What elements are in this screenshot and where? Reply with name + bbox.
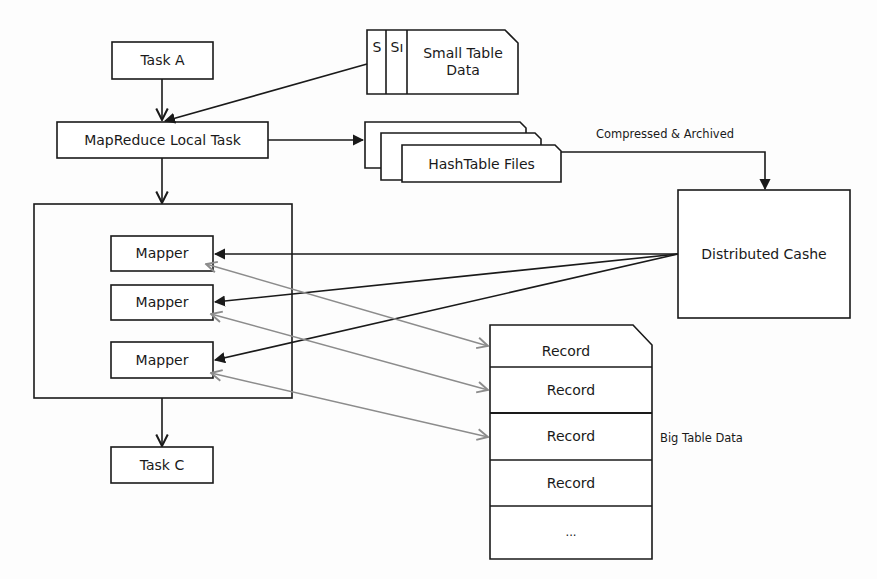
task-c-label: Task C	[111, 447, 213, 483]
small-table-label-line2: Data	[446, 62, 479, 79]
small-table-label: Small Table Data	[408, 32, 518, 92]
distributed-cache-label: Distributed Cashe	[678, 236, 850, 272]
small-table-label-line1: Small Table	[423, 45, 503, 62]
task-a-label: Task A	[112, 42, 213, 79]
link-mapper3-record3	[211, 373, 488, 437]
big-table-record-4: Record	[490, 460, 652, 506]
compressed-archived-label: Compressed & Archived	[590, 125, 740, 143]
small-table-stack-label-1: S	[368, 30, 386, 64]
big-table-caption: Big Table Data	[660, 429, 760, 447]
link-mapper1-record1	[206, 264, 488, 346]
big-table-record-2: Record	[490, 367, 652, 413]
local-task-label: MapReduce Local Task	[57, 122, 268, 158]
edge-cache-to-mapper-2	[215, 254, 678, 302]
mapper-label-2: Mapper	[111, 285, 213, 320]
mapper-label-3: Mapper	[111, 342, 213, 378]
edge-hashtable-to-cache	[561, 152, 765, 189]
small-table-stack-label-2: Sı	[387, 30, 407, 64]
big-table-record-3: Record	[490, 413, 652, 460]
hashtable-files-label: HashTable Files	[402, 146, 561, 182]
big-table-ellipsis: ...	[490, 506, 652, 559]
mapper-label-1: Mapper	[111, 236, 213, 271]
big-table-record-1: Record	[490, 335, 642, 367]
